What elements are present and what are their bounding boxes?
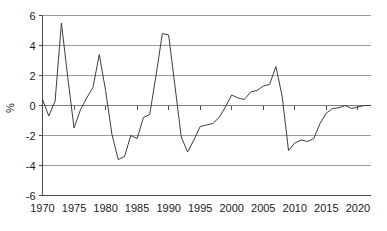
x-tick-label-1975: 1975 [62, 202, 86, 214]
y-tick-label-2: 2 [29, 70, 35, 82]
x-axis-tick-labels: 1970197519801985199019952000200520102015… [30, 202, 370, 214]
y-axis-title: % [4, 103, 16, 113]
y-tick-label-4: 4 [29, 40, 35, 52]
x-tick-label-2020: 2020 [346, 202, 370, 214]
y-tick-label--4: -4 [26, 160, 36, 172]
data-series-line [43, 23, 371, 160]
x-tick-label-1990: 1990 [156, 202, 180, 214]
y-axis-tick-labels: -6-4-20246 [26, 10, 36, 202]
gridlines-group [43, 16, 371, 196]
y-tick-label--2: -2 [26, 130, 36, 142]
x-tick-label-1980: 1980 [93, 202, 117, 214]
x-tick-label-1995: 1995 [188, 202, 212, 214]
y-tick-label-6: 6 [29, 10, 35, 22]
x-tick-label-2000: 2000 [219, 202, 243, 214]
x-tick-label-2010: 2010 [283, 202, 307, 214]
chart-container: -6-4-20246 19701975198019851990199520002… [0, 0, 387, 231]
x-tick-label-2005: 2005 [251, 202, 275, 214]
x-tick-label-1985: 1985 [125, 202, 149, 214]
x-tick-label-1970: 1970 [30, 202, 54, 214]
line-chart: -6-4-20246 19701975198019851990199520002… [0, 0, 387, 231]
x-tick-label-2015: 2015 [314, 202, 338, 214]
y-tick-label--6: -6 [26, 190, 36, 202]
y-tick-label-0: 0 [29, 100, 35, 112]
